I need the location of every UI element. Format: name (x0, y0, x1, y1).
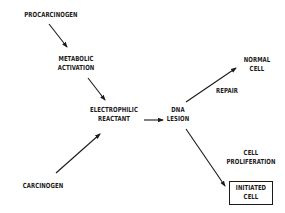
lesion-label: LESION (165, 115, 191, 124)
node-procarcinogen: PROCARCINOGEN (20, 11, 83, 20)
cell-label: CELL (243, 65, 272, 74)
proliferation-label: PROLIFERATION (226, 158, 275, 167)
node-initiated-cell: INITIATED CELL (231, 184, 270, 201)
activation-label: ACTIVATION (52, 64, 100, 73)
electrophilic-label: ELECTROPHILIC (87, 106, 141, 115)
repair-label: REPAIR (216, 87, 238, 95)
node-dna-lesion: DNA LESION (165, 106, 191, 123)
node-metabolic-activation: METABOLIC ACTIVATION (52, 55, 100, 72)
carcinogen-label: CARCINOGEN (23, 182, 64, 190)
edge-label-repair: REPAIR (213, 87, 242, 96)
procarcinogen-label: PROCARCINOGEN (24, 11, 77, 19)
dna-label: DNA (165, 106, 191, 115)
node-electrophilic-reactant: ELECTROPHILIC REACTANT (87, 106, 141, 123)
arrow-carcinogen-to-reactant (56, 134, 100, 173)
normal-label: NORMAL (243, 56, 272, 65)
arrow-procarcinogen-to-activation (49, 24, 67, 47)
node-carcinogen: CARCINOGEN (18, 182, 67, 191)
reactant-label: REACTANT (87, 115, 141, 124)
node-normal-cell: NORMAL CELL (243, 56, 272, 73)
edge-label-cell-proliferation: CELL PROLIFERATION (226, 149, 275, 166)
cell-label: CELL (231, 193, 270, 202)
metabolic-label: METABOLIC (52, 55, 100, 64)
arrow-activation-to-reactant (88, 78, 105, 100)
arrow-dna-lesion-to-initiated-cell (186, 129, 225, 186)
initiated-label: INITIATED (231, 184, 270, 193)
cell-label: CELL (226, 149, 275, 158)
arrow-dna-lesion-to-normal-cell (186, 68, 236, 102)
